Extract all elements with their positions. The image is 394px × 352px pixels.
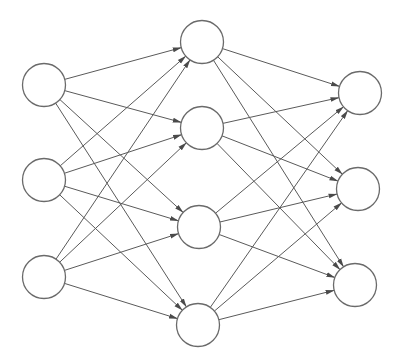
input-node-i2 <box>23 159 66 202</box>
output-node-o2 <box>337 168 380 211</box>
edge-h2-o3 <box>217 143 340 269</box>
output-node-o1 <box>339 72 382 115</box>
edge-h1-o1 <box>222 49 339 87</box>
hidden-node-h1 <box>181 21 224 64</box>
hidden-node-h3 <box>178 206 221 249</box>
edge-i3-h2 <box>60 143 187 262</box>
edge-h3-o2 <box>220 194 337 222</box>
hidden-node-h4 <box>177 304 220 347</box>
nodes-group <box>23 21 382 347</box>
edge-h3-o3 <box>219 234 335 277</box>
hidden-node-h2 <box>181 107 224 150</box>
edge-h1-o2 <box>218 57 343 175</box>
output-node-o3 <box>334 264 377 307</box>
edge-h1-o3 <box>213 60 343 267</box>
edges-group <box>56 48 348 320</box>
neural-network-diagram <box>0 0 394 352</box>
edge-i3-h4 <box>65 283 178 318</box>
input-node-i3 <box>23 256 66 299</box>
edge-h2-o2 <box>222 136 338 181</box>
input-node-i1 <box>23 64 66 107</box>
edge-i1-h3 <box>60 100 183 213</box>
edge-i1-h1 <box>65 48 182 80</box>
edge-h2-o1 <box>223 98 339 124</box>
edge-h4-o1 <box>210 111 347 308</box>
edge-i2-h1 <box>60 56 186 166</box>
edge-i3-h3 <box>64 234 178 271</box>
edge-i1-h2 <box>65 91 182 123</box>
edge-i3-h1 <box>56 60 190 259</box>
edge-i2-h2 <box>64 135 181 174</box>
edge-h4-o3 <box>219 290 334 319</box>
